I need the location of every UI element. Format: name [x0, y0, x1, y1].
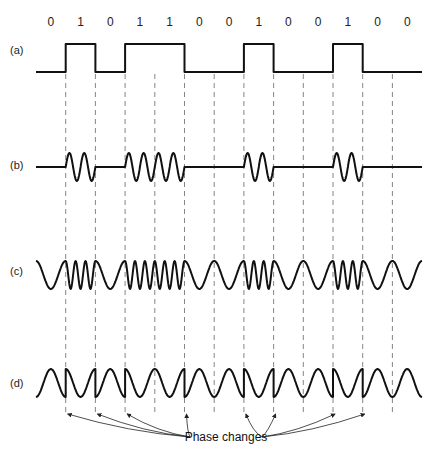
phase-change-arrow — [68, 414, 190, 437]
row-label-c: (c) — [10, 265, 23, 277]
bit-boundary-lines — [66, 74, 393, 412]
bit-label: 0 — [196, 15, 203, 29]
bit-label: 1 — [166, 15, 173, 29]
bit-label: 0 — [404, 15, 411, 29]
phase-changes-caption: Phase changes — [185, 430, 268, 444]
bit-label: 0 — [315, 15, 322, 29]
row-labels: (a)(b)(c)(d) — [10, 44, 23, 389]
bit-label: 0 — [107, 15, 114, 29]
bit-label: 1 — [77, 15, 84, 29]
bit-labels: 0101100100100 — [48, 15, 411, 29]
psk-waveform — [36, 369, 422, 397]
bit-label: 1 — [255, 15, 262, 29]
phase-change-arrow — [262, 414, 365, 437]
bit-label: 1 — [345, 15, 352, 29]
row-label-b: (b) — [10, 159, 23, 171]
row-label-a: (a) — [10, 44, 23, 56]
ask-waveform — [36, 153, 422, 181]
binary-waveform — [36, 44, 422, 72]
bit-label: 0 — [48, 15, 55, 29]
phase-change-arrow — [262, 414, 335, 437]
row-label-d: (d) — [10, 377, 23, 389]
bit-label: 1 — [137, 15, 144, 29]
modulation-diagram: 0101100100100 (a)(b)(c)(d) Phase changes — [0, 0, 438, 455]
fsk-waveform — [36, 261, 422, 289]
bit-label: 0 — [374, 15, 381, 29]
bit-label: 0 — [226, 15, 233, 29]
bit-label: 0 — [285, 15, 292, 29]
